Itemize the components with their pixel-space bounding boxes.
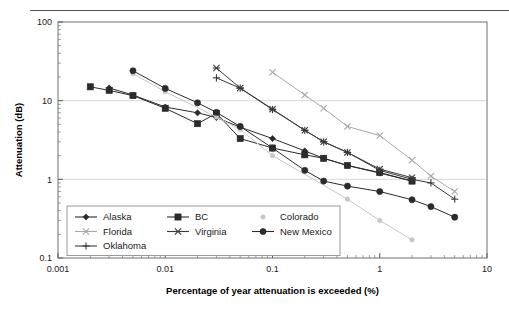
- marker-dot: [270, 153, 275, 158]
- legend-label: Oklahoma: [103, 240, 147, 251]
- marker-square: [237, 135, 243, 141]
- marker-square: [175, 214, 181, 220]
- marker-circle: [194, 100, 200, 106]
- ytick-label: 100: [37, 17, 52, 27]
- marker-dot: [261, 215, 266, 220]
- marker-circle: [321, 178, 327, 184]
- marker-circle: [213, 109, 219, 115]
- xtick-label: 0.1: [266, 264, 279, 274]
- marker-dot: [377, 218, 382, 223]
- marker-circle: [269, 145, 275, 151]
- xtick-label: 1: [377, 264, 382, 274]
- marker-circle: [260, 228, 266, 234]
- xtick-label: 10: [482, 264, 492, 274]
- marker-square: [162, 105, 168, 111]
- marker-square: [130, 92, 136, 98]
- marker-circle: [130, 68, 136, 74]
- chart-figure: 0.0010.010.11100.1110100Percentage of ye…: [0, 0, 509, 311]
- x-axis-title: Percentage of year attenuation is exceed…: [166, 285, 379, 296]
- ytick-label: 1: [47, 175, 52, 185]
- ytick-label: 10: [42, 96, 52, 106]
- xtick-label: 0.001: [47, 264, 70, 274]
- marker-square: [194, 121, 200, 127]
- legend-label: Alaska: [103, 211, 132, 222]
- ytick-label: 0.1: [39, 253, 52, 263]
- marker-circle: [428, 204, 434, 210]
- attenuation-log-log-chart: 0.0010.010.11100.1110100Percentage of ye…: [0, 0, 509, 311]
- legend-label: Colorado: [280, 211, 319, 222]
- marker-dot: [345, 197, 350, 202]
- marker-square: [344, 162, 350, 168]
- marker-circle: [162, 85, 168, 91]
- legend-label: Florida: [103, 226, 133, 237]
- marker-square: [87, 84, 93, 90]
- marker-square: [106, 87, 112, 93]
- legend-label: BC: [195, 211, 208, 222]
- marker-circle: [302, 167, 308, 173]
- marker-circle: [237, 123, 243, 129]
- marker-circle: [409, 197, 415, 203]
- marker-dot: [410, 238, 415, 243]
- marker-circle: [344, 183, 350, 189]
- marker-square: [302, 152, 308, 158]
- marker-circle: [452, 214, 458, 220]
- marker-circle: [377, 188, 383, 194]
- legend-label: New Mexico: [280, 226, 332, 237]
- y-axis-title: Attenuation (dB): [13, 103, 24, 177]
- legend-label: Virginia: [195, 226, 227, 237]
- marker-square: [321, 155, 327, 161]
- xtick-label: 0.01: [156, 264, 174, 274]
